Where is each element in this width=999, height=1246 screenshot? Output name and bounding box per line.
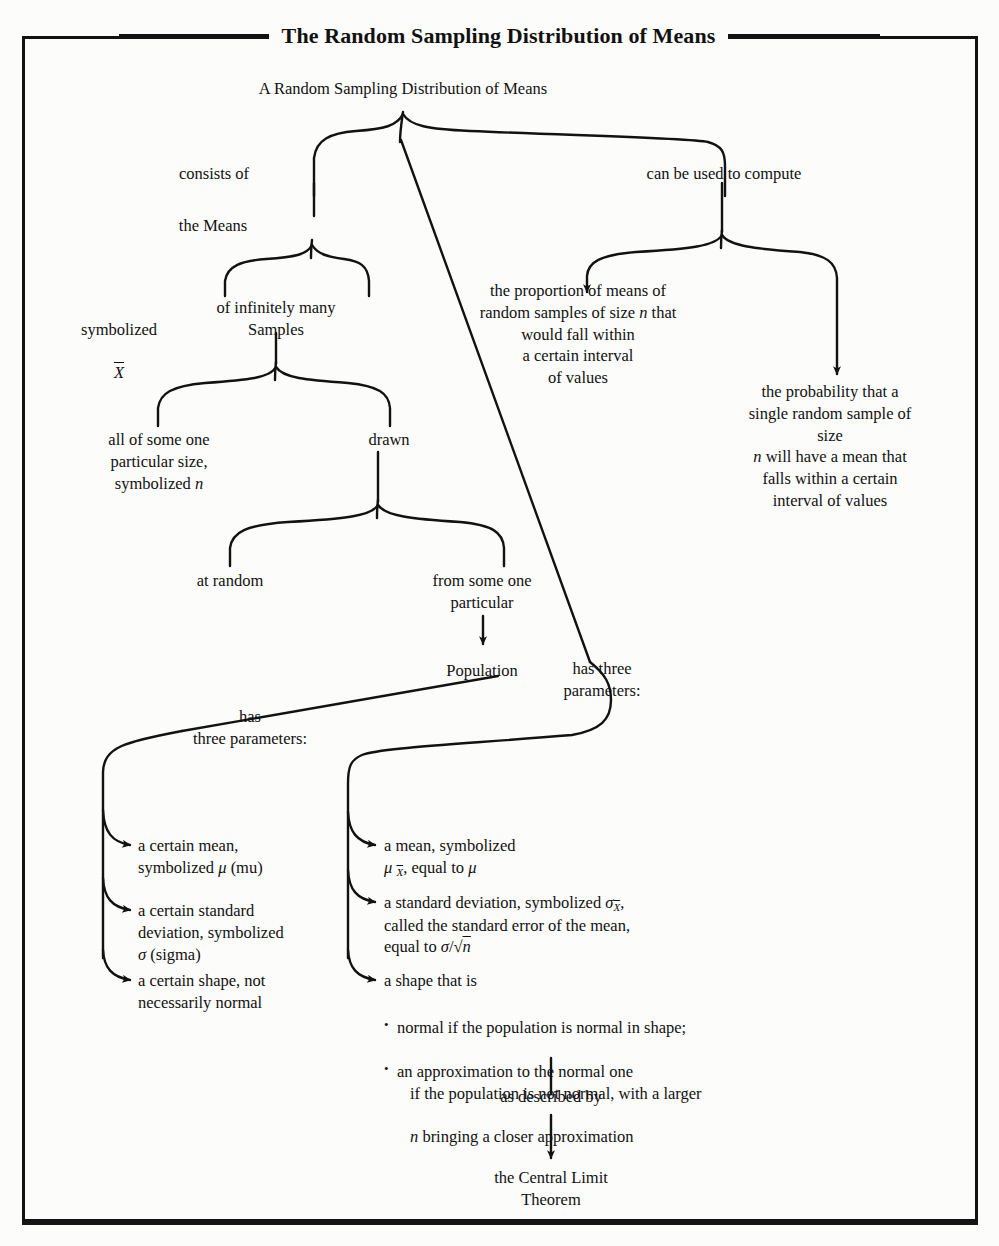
pop-parameter-mean: a certain mean,symbolized μ (mu) [138,835,263,879]
node-proportion-of-means: the proportion of means ofrandom samples… [480,280,677,389]
node-drawn: drawn [368,429,409,451]
x-bar-symbol: X [114,363,124,382]
pop-parameter-std-dev: a certain standarddeviation, symbolizedσ… [138,900,284,965]
rsdm-parameter-std-dev: a standard deviation, symbolized σX,call… [384,892,630,958]
node-pop-has-three-parameters: has three parameters: [193,706,307,750]
title-bar: The Random Sampling Distribution of Mean… [0,20,999,52]
node-of-infinitely-many-samples: of infinitely many Samples [216,297,335,341]
shape-bullet-2: an approximation to the normal one if th… [384,1061,702,1170]
node-central-limit-theorem: the Central Limit Theorem [494,1167,608,1211]
node-symbolized-xbar: symbolized X [81,297,157,384]
diagram-page: The Random Sampling Distribution of Mean… [0,0,999,1246]
node-the-means: the Means [179,215,247,237]
symbolized-label: symbolized [81,320,157,339]
page-title: The Random Sampling Distribution of Mean… [269,25,729,47]
node-can-be-used-to-compute: can be used to compute [647,163,802,185]
node-at-random: at random [197,570,263,592]
rsdm-parameter-mean: a mean, symbolizedμ X, equal to μ [384,835,516,879]
node-root: A Random Sampling Distribution of Means [259,78,547,100]
node-probability-that: the probability that asingle random samp… [746,381,915,512]
node-as-described-by: as described by [500,1086,602,1108]
node-population: Population [446,660,518,682]
node-rsdm-has-three-parameters: has three parameters: [564,658,641,702]
shape-bullet-2-cont-2: n bringing a closer approximation [397,1126,702,1148]
pop-parameter-shape: a certain shape, notnecessarily normal [138,970,265,1014]
title-rule-right [728,34,880,39]
node-from-some-one-particular: from some one particular [433,570,532,614]
node-all-of-some-one: all of some oneparticular size,symbolize… [108,429,209,494]
shape-bullet-1: normal if the population is normal in sh… [384,1017,702,1039]
node-consists-of: consists of [179,163,249,185]
title-rule-left [119,34,269,39]
